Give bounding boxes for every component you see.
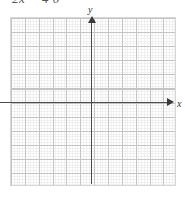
x-axis-label: x xyxy=(177,99,181,109)
equation-strip: 2x − 4 0 xyxy=(0,0,185,7)
x-axis-arrow-icon xyxy=(167,98,174,106)
screenshot-root: 2x − 4 0 y x xyxy=(0,0,185,198)
x-axis-line xyxy=(0,102,170,103)
y-axis-line xyxy=(91,21,92,184)
y-axis-arrow-icon xyxy=(88,16,96,23)
y-axis-label: y xyxy=(88,5,92,15)
equation-text: 2x − 4 0 xyxy=(12,0,60,7)
